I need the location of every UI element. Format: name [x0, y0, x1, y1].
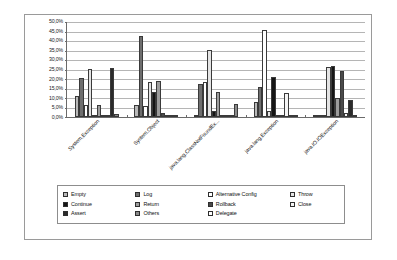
- legend-swatch-icon: [208, 211, 213, 216]
- y-axis-tick-label: 0,0%: [52, 115, 63, 120]
- y-axis-tick-label: 45,0%: [49, 29, 63, 34]
- bar: [88, 69, 92, 117]
- bar: [340, 71, 344, 117]
- x-axis-category-label: System.Exception: [67, 118, 101, 152]
- bar-groups: [67, 22, 365, 117]
- legend-item: Log: [135, 192, 207, 197]
- legend-label: Continue: [71, 202, 92, 207]
- legend-label: Delegate: [216, 211, 237, 216]
- bar-group: [67, 22, 127, 117]
- chart-frame: 50,0%45,0%40,0%35,0%30,0%25,0%20,0%15,0%…: [24, 14, 372, 240]
- legend-item: Throw: [290, 192, 339, 197]
- legend-item: Rollback: [208, 202, 290, 207]
- chart-legend: EmptyLogAlternative ConfigThrowContinueR…: [57, 185, 345, 224]
- legend-swatch-icon: [63, 211, 68, 216]
- bar: [353, 115, 357, 117]
- legend-swatch-icon: [208, 202, 213, 207]
- legend-label: Return: [143, 202, 159, 207]
- x-axis-category-label: java.lang.Exception: [244, 118, 280, 154]
- bar: [284, 93, 288, 117]
- legend-row: ContinueReturnRollbackClose: [63, 200, 339, 210]
- y-axis-tick-label: 20,0%: [49, 77, 63, 82]
- bar-group: [246, 22, 306, 117]
- legend-swatch-icon: [290, 202, 295, 207]
- y-axis-tick-label: 10,0%: [49, 96, 63, 101]
- x-axis-category-label: java.lang.ClassNotFoundEx...: [167, 118, 219, 170]
- bar: [174, 115, 178, 117]
- legend-swatch-icon: [135, 211, 140, 216]
- y-axis-tick-label: 30,0%: [49, 58, 63, 63]
- legend-item: Return: [135, 202, 207, 207]
- y-axis-tick-label: 5,0%: [52, 106, 63, 111]
- legend-label: Log: [143, 192, 152, 197]
- legend-label: Throw: [298, 192, 312, 197]
- y-axis-tick-label: 15,0%: [49, 87, 63, 92]
- legend-swatch-icon: [63, 192, 68, 197]
- legend-row: AssertOthersDelegate: [63, 209, 339, 219]
- bar: [114, 114, 118, 117]
- bar: [234, 104, 238, 117]
- legend-item: Alternative Config: [208, 192, 290, 197]
- bar: [293, 115, 297, 117]
- legend-item: Close: [290, 202, 339, 207]
- bar-group: [127, 22, 187, 117]
- y-axis-tick-label: 35,0%: [49, 48, 63, 53]
- legend-label: Empty: [71, 192, 86, 197]
- legend-label: Others: [143, 211, 159, 216]
- legend-item: Delegate: [208, 211, 290, 216]
- bar: [262, 30, 266, 117]
- legend-item: Continue: [63, 202, 135, 207]
- bar: [110, 68, 114, 117]
- legend-label: Alternative Config: [216, 192, 257, 197]
- bar-group: [305, 22, 365, 117]
- legend-item: Assert: [63, 211, 135, 216]
- legend-swatch-icon: [208, 192, 213, 197]
- legend-swatch-icon: [135, 202, 140, 207]
- y-axis-tick-label: 25,0%: [49, 67, 63, 72]
- legend-swatch-icon: [290, 192, 295, 197]
- legend-item: Others: [135, 211, 207, 216]
- y-axis-tick-label: 50,0%: [49, 19, 63, 24]
- y-axis-tick-label: 40,0%: [49, 39, 63, 44]
- plot-area: [66, 22, 365, 118]
- legend-item: Empty: [63, 192, 135, 197]
- bar: [216, 92, 220, 117]
- legend-row: EmptyLogAlternative ConfigThrow: [63, 190, 339, 200]
- legend-label: Close: [298, 202, 311, 207]
- legend-swatch-icon: [63, 202, 68, 207]
- plot-area-wrapper: 50,0%45,0%40,0%35,0%30,0%25,0%20,0%15,0%…: [35, 22, 365, 118]
- bar: [271, 77, 275, 117]
- y-axis-labels: 50,0%45,0%40,0%35,0%30,0%25,0%20,0%15,0%…: [35, 22, 65, 118]
- bar: [156, 81, 160, 117]
- legend-label: Rollback: [216, 202, 236, 207]
- x-axis-category-label: System.Object: [132, 118, 160, 146]
- bar: [207, 50, 211, 117]
- x-axis-category-label: java.IO.IOException: [303, 118, 340, 155]
- legend-label: Assert: [71, 211, 86, 216]
- legend-swatch-icon: [135, 192, 140, 197]
- x-axis-category-labels: System.ExceptionSystem.Objectjava.lang.C…: [66, 118, 365, 180]
- bar-group: [186, 22, 246, 117]
- bar: [139, 36, 143, 117]
